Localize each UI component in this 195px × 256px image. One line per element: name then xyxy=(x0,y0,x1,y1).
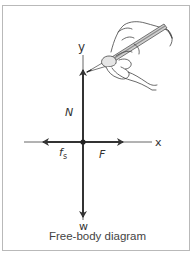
x-axis-label: x xyxy=(155,136,162,149)
friction-force-subscript: s xyxy=(63,152,67,161)
hand-pencil-icon xyxy=(87,22,172,90)
friction-force-label: fs xyxy=(59,146,67,161)
object-point xyxy=(80,139,85,144)
diagram-caption: Free-body diagram xyxy=(0,230,195,242)
y-axis-label: y xyxy=(78,40,85,54)
free-body-diagram: y x N w F fs xyxy=(0,0,195,256)
normal-force-label: N xyxy=(65,106,73,119)
applied-force-label: F xyxy=(99,148,106,161)
